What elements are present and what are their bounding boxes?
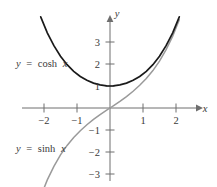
x-tick-label-pos1: 1 (140, 115, 145, 126)
sinh-curve-label: y = sinh x (15, 143, 66, 154)
cosh-label-x: x (62, 58, 68, 69)
x-axis-label: x (202, 103, 208, 114)
cosh-label-equals: = (26, 58, 32, 69)
cosh-label-fn: cosh (38, 58, 58, 69)
sinh-label-equals: = (26, 143, 32, 154)
sinh-label-y: y (15, 143, 21, 154)
y-tick-label-neg1: −1 (89, 125, 100, 136)
sinh-label-x: x (60, 143, 66, 154)
cosh-curve-label: y = cosh x (15, 58, 68, 69)
y-tick-label-neg3: −3 (89, 169, 100, 180)
cosh-label-y: y (15, 58, 21, 69)
graph-canvas: x y −2 −1 1 2 3 2 1 −1 −2 −3 y = cosh x … (0, 0, 217, 187)
y-tick-label-pos2: 2 (95, 59, 100, 70)
x-tick-label-neg1: −1 (71, 115, 82, 126)
y-axis-arrowhead (107, 15, 114, 22)
sinh-label-fn: sinh (38, 143, 56, 154)
hyperbolic-functions-figure: x y −2 −1 1 2 3 2 1 −1 −2 −3 y = cosh x … (0, 0, 217, 187)
y-axis-label: y (114, 8, 120, 19)
x-tick-label-neg2: −2 (38, 115, 49, 126)
x-tick-label-pos2: 2 (173, 115, 178, 126)
y-tick-label-pos3: 3 (95, 37, 100, 48)
y-tick-label-neg2: −2 (89, 147, 100, 158)
y-tick-label-pos1: 1 (95, 81, 100, 92)
